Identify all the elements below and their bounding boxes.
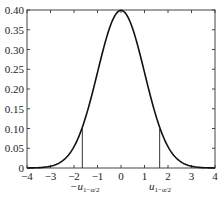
plot-border xyxy=(27,10,215,168)
x-tick-label: −3 xyxy=(45,170,57,182)
y-tick-label: 0.25 xyxy=(5,63,25,75)
y-tick-label: 0.10 xyxy=(5,123,25,135)
y-tick-label: 0.20 xyxy=(5,83,25,95)
y-tick-label: 0.40 xyxy=(5,4,25,16)
x-tick-label: 1 xyxy=(142,170,148,182)
plot-frame xyxy=(27,10,215,168)
y-tick-label: 0.05 xyxy=(5,142,25,154)
normal-density-chart: 00.050.100.150.200.250.300.350.40 −4−3−2… xyxy=(0,0,223,204)
y-tick-label: 0.30 xyxy=(5,44,25,56)
x-tick-label: 4 xyxy=(212,170,218,182)
x-tick-label: −4 xyxy=(21,170,33,182)
right-critical-label: u1−α/2 xyxy=(149,180,172,194)
y-tick-label: 0.15 xyxy=(5,103,25,115)
x-tick-label: −1 xyxy=(92,170,104,182)
critical-value-lines xyxy=(82,127,159,168)
x-tick-label: 3 xyxy=(189,170,195,182)
density-curve xyxy=(27,10,215,168)
left-critical-label: −u1−α/2 xyxy=(70,180,100,194)
x-tick-label: 2 xyxy=(165,170,171,182)
x-tick-label: 0 xyxy=(118,170,124,182)
x-axis-ticks: −4−3−2−101234 xyxy=(21,10,218,182)
y-tick-label: 0.35 xyxy=(5,24,25,36)
